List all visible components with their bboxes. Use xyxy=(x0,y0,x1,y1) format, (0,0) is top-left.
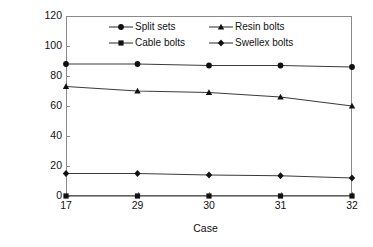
y-tick-label: 60 xyxy=(28,99,62,111)
legend-marker-filled-triangle-icon xyxy=(208,21,234,33)
y-tick-label: 120 xyxy=(28,9,62,21)
legend-marker-filled-square-icon xyxy=(108,37,134,49)
y-tick-label: 100 xyxy=(28,39,62,51)
legend-item-swellex-bolts[interactable]: Swellex bolts xyxy=(208,37,323,49)
y-tick-mark xyxy=(66,46,70,47)
x-tick-mark xyxy=(209,192,210,196)
x-tick-mark xyxy=(281,192,282,196)
y-tick-label: 40 xyxy=(28,129,62,141)
legend-item-label: Resin bolts xyxy=(235,21,284,33)
legend-marker-filled-diamond-icon xyxy=(208,37,234,49)
legend-item-split-sets[interactable]: Split sets xyxy=(108,21,208,33)
y-tick-mark xyxy=(66,136,70,137)
y-tick-mark xyxy=(66,76,70,77)
x-tick-label: 30 xyxy=(189,199,229,211)
x-tick-label: 29 xyxy=(118,199,158,211)
x-axis-title: Case xyxy=(58,222,353,234)
legend-item-resin-bolts[interactable]: Resin bolts xyxy=(208,21,323,33)
legend-marker-filled-circle-icon xyxy=(108,21,134,33)
legend-item-label: Split sets xyxy=(135,21,176,33)
legend-item-label: Cable bolts xyxy=(135,37,185,49)
legend-item-label: Swellex bolts xyxy=(235,37,293,49)
x-tick-label: 31 xyxy=(261,199,301,211)
y-tick-mark xyxy=(66,196,70,197)
y-tick-mark xyxy=(66,106,70,107)
x-tick-mark xyxy=(66,192,67,196)
legend-item-cable-bolts[interactable]: Cable bolts xyxy=(108,37,208,49)
x-tick-mark xyxy=(138,192,139,196)
y-tick-mark xyxy=(66,16,70,17)
x-tick-mark xyxy=(352,192,353,196)
chart-legend: Split setsResin boltsCable boltsSwellex … xyxy=(108,19,323,51)
x-tick-label: 32 xyxy=(332,199,372,211)
y-tick-label: 20 xyxy=(28,159,62,171)
x-tick-label: 17 xyxy=(46,199,86,211)
y-tick-label: 80 xyxy=(28,69,62,81)
chart-figure: Bond shear failure (%) 020406080100120 1… xyxy=(0,0,373,247)
y-tick-mark xyxy=(66,166,70,167)
